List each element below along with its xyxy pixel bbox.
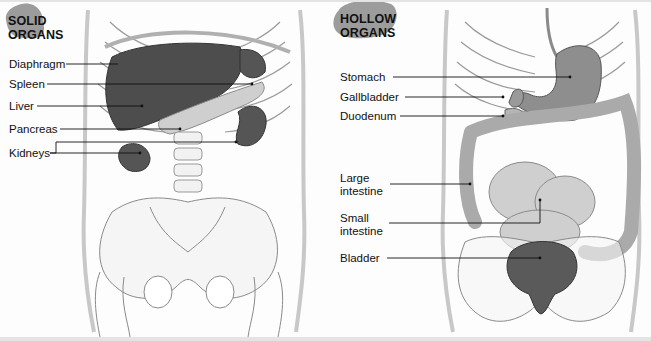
label-spleen: Spleen: [9, 78, 45, 91]
solid-organs-panel: SOLID ORGANS Diaphragm Spleen Liver Panc…: [0, 2, 325, 337]
label-large-intestine: Large intestine: [340, 172, 400, 198]
hollow-organs-heading: HOLLOW ORGANS: [340, 12, 396, 40]
label-liver: Liver: [9, 100, 34, 113]
label-gallbladder: Gallbladder: [340, 91, 399, 104]
label-diaphragm: Diaphragm: [9, 58, 65, 71]
solid-organs-illustration: [0, 2, 325, 337]
label-pancreas: Pancreas: [9, 123, 58, 136]
label-small-intestine: Small intestine: [340, 212, 400, 238]
label-kidneys: Kidneys: [9, 147, 50, 160]
label-stomach: Stomach: [340, 71, 385, 84]
label-bladder: Bladder: [340, 252, 380, 265]
label-duodenum: Duodenum: [340, 110, 396, 123]
hollow-organs-illustration: [325, 2, 651, 337]
solid-organs-heading: SOLID ORGANS: [8, 14, 63, 42]
diagram-canvas: SOLID ORGANS Diaphragm Spleen Liver Panc…: [0, 2, 651, 337]
hollow-organs-panel: HOLLOW ORGANS Stomach Gallbladder Duoden…: [325, 2, 651, 337]
